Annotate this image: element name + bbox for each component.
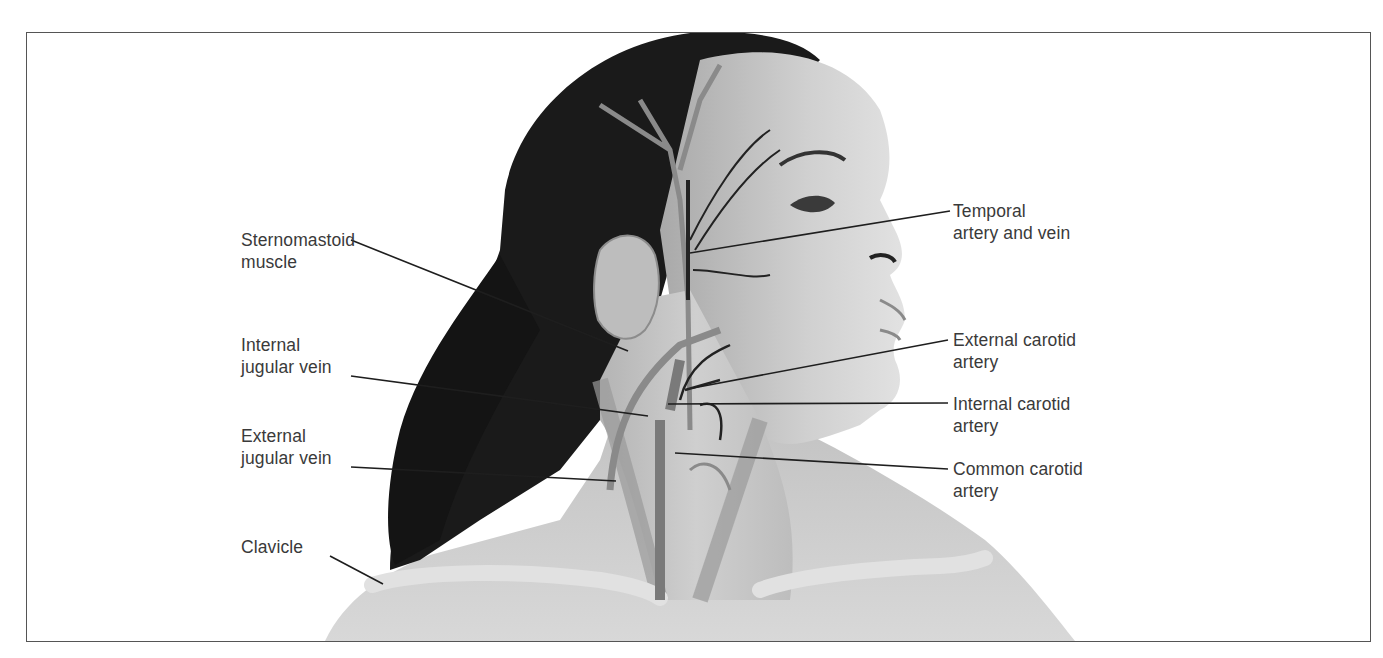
label-line: External bbox=[241, 425, 332, 447]
label-external-carotid-artery: External carotid artery bbox=[953, 329, 1076, 373]
label-line: External carotid bbox=[953, 329, 1076, 351]
label-line: Internal bbox=[241, 334, 332, 356]
label-temporal-artery-and-vein: Temporal artery and vein bbox=[953, 200, 1070, 244]
label-internal-carotid-artery: Internal carotid artery bbox=[953, 393, 1070, 437]
label-clavicle: Clavicle bbox=[241, 536, 303, 558]
ear bbox=[594, 236, 659, 339]
label-line: jugular vein bbox=[241, 447, 332, 469]
label-line: artery bbox=[953, 415, 1070, 437]
label-line: Clavicle bbox=[241, 536, 303, 558]
label-line: artery and vein bbox=[953, 222, 1070, 244]
anatomy-illustration bbox=[0, 0, 1383, 658]
label-internal-jugular-vein: Internal jugular vein bbox=[241, 334, 332, 378]
label-line: Internal carotid bbox=[953, 393, 1070, 415]
label-sternomastoid-muscle: Sternomastoid muscle bbox=[241, 229, 355, 273]
label-line: artery bbox=[953, 480, 1083, 502]
label-common-carotid-artery: Common carotid artery bbox=[953, 458, 1083, 502]
label-line: jugular vein bbox=[241, 356, 332, 378]
label-line: Temporal bbox=[953, 200, 1070, 222]
label-line: Sternomastoid bbox=[241, 229, 355, 251]
label-line: Common carotid bbox=[953, 458, 1083, 480]
label-line: artery bbox=[953, 351, 1076, 373]
label-line: muscle bbox=[241, 251, 355, 273]
label-external-jugular-vein: External jugular vein bbox=[241, 425, 332, 469]
